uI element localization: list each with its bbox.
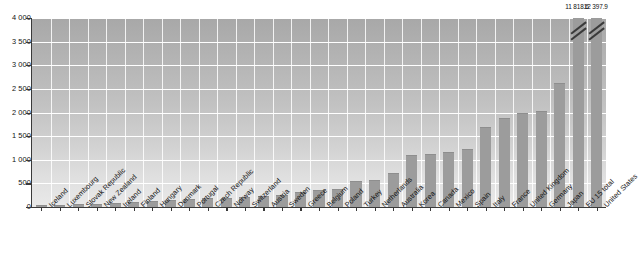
x-axis-tick bbox=[319, 207, 320, 211]
x-axis-tick bbox=[300, 207, 301, 211]
y-axis-tick bbox=[26, 183, 32, 184]
y-axis-tick bbox=[26, 113, 32, 114]
gridline-vertical bbox=[180, 18, 181, 207]
gridline-vertical bbox=[365, 18, 366, 207]
x-axis-tick bbox=[338, 207, 339, 211]
bar bbox=[591, 18, 602, 207]
x-axis-tick bbox=[78, 207, 79, 211]
y-axis-tick bbox=[26, 89, 32, 90]
x-axis-tick bbox=[560, 207, 561, 211]
y-axis-tick bbox=[26, 18, 32, 19]
bar-value-annotation: 12 397.9 bbox=[584, 4, 608, 10]
x-axis-tick bbox=[412, 207, 413, 211]
x-axis-tick bbox=[486, 207, 487, 211]
gridline-vertical bbox=[495, 18, 496, 207]
gridline-vertical bbox=[310, 18, 311, 207]
x-axis-tick bbox=[597, 207, 598, 211]
x-axis-tick bbox=[245, 207, 246, 211]
x-axis-tick bbox=[449, 207, 450, 211]
gridline-vertical bbox=[217, 18, 218, 207]
y-axis-tick bbox=[26, 42, 32, 43]
gridline-vertical bbox=[421, 18, 422, 207]
gridline-vertical bbox=[384, 18, 385, 207]
y-axis-tick bbox=[26, 160, 32, 161]
gridline-vertical bbox=[439, 18, 440, 207]
gridline-vertical bbox=[162, 18, 163, 207]
x-axis-tick bbox=[430, 207, 431, 211]
x-axis-tick bbox=[171, 207, 172, 211]
gridline-vertical bbox=[513, 18, 514, 207]
gridline-vertical bbox=[328, 18, 329, 207]
y-axis-tick bbox=[26, 65, 32, 66]
x-axis-tick bbox=[578, 207, 579, 211]
gridline-vertical bbox=[458, 18, 459, 207]
x-axis-tick bbox=[504, 207, 505, 211]
x-axis-tick bbox=[393, 207, 394, 211]
gridline-horizontal bbox=[32, 65, 606, 66]
gridline-vertical bbox=[199, 18, 200, 207]
bar bbox=[573, 18, 584, 207]
x-axis-tick bbox=[375, 207, 376, 211]
gridline-vertical bbox=[476, 18, 477, 207]
gridline-vertical bbox=[254, 18, 255, 207]
x-axis-tick bbox=[134, 207, 135, 211]
gridline-horizontal bbox=[32, 18, 606, 19]
x-axis-tick bbox=[41, 207, 42, 211]
gridline-vertical bbox=[69, 18, 70, 207]
gridline-vertical bbox=[569, 18, 570, 207]
x-axis-tick bbox=[152, 207, 153, 211]
y-axis-tick bbox=[26, 207, 32, 208]
x-axis-tick bbox=[282, 207, 283, 211]
gridline-vertical bbox=[51, 18, 52, 207]
gridline-horizontal bbox=[32, 89, 606, 90]
gridline-vertical bbox=[347, 18, 348, 207]
x-axis-tick bbox=[208, 207, 209, 211]
gridline-vertical bbox=[587, 18, 588, 207]
gridline-vertical bbox=[291, 18, 292, 207]
x-axis-tick bbox=[60, 207, 61, 211]
x-axis-tick bbox=[189, 207, 190, 211]
x-axis-tick bbox=[97, 207, 98, 211]
x-axis-tick bbox=[356, 207, 357, 211]
x-axis-tick bbox=[115, 207, 116, 211]
x-axis-labels: IcelandLuxembourgSlovak RepublicNew Zeal… bbox=[0, 207, 613, 273]
x-axis-tick bbox=[467, 207, 468, 211]
x-axis-tick bbox=[226, 207, 227, 211]
gridline-vertical bbox=[532, 18, 533, 207]
x-axis-tick bbox=[541, 207, 542, 211]
gridline-vertical bbox=[143, 18, 144, 207]
x-axis-tick bbox=[523, 207, 524, 211]
x-axis-tick bbox=[263, 207, 264, 211]
gridline-horizontal bbox=[32, 42, 606, 43]
y-axis-tick bbox=[26, 136, 32, 137]
